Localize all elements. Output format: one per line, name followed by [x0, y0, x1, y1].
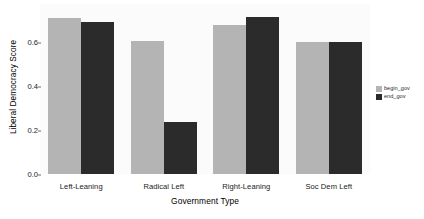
- bar-begin_gov: [131, 41, 164, 174]
- bar-group: [213, 4, 279, 174]
- bar-group: [131, 4, 197, 174]
- y-tick-label: 0.2: [2, 126, 38, 135]
- plot-area: 0.00.20.40.6: [40, 4, 370, 174]
- bar-begin_gov: [48, 18, 81, 174]
- legend: begin_gov end_gov: [376, 85, 410, 101]
- x-axis-title: Government Type: [40, 196, 370, 206]
- bar-end_gov: [329, 42, 362, 174]
- bar-end_gov: [164, 122, 197, 174]
- y-tick-label: 0.4: [2, 82, 38, 91]
- x-tick-label: Radical Left: [143, 182, 184, 191]
- plot-inner: 0.00.20.40.6: [40, 4, 370, 174]
- y-tick-label: 0.0: [2, 170, 38, 179]
- bar-begin_gov: [213, 25, 246, 174]
- x-tick-label: Soc Dem Left: [305, 182, 352, 191]
- bar-group: [48, 4, 114, 174]
- bar-begin_gov: [296, 42, 329, 174]
- bar-end_gov: [81, 22, 114, 174]
- bar-chart-figure: Liberal Democracy Score 0.00.20.40.6 Gov…: [0, 0, 424, 219]
- bar-group: [296, 4, 362, 174]
- legend-item-begin-gov: begin_gov: [376, 85, 410, 92]
- legend-label-begin-gov: begin_gov: [384, 85, 410, 92]
- x-tick-label: Right-Leaning: [222, 182, 270, 191]
- legend-label-end-gov: end_gov: [384, 93, 405, 100]
- legend-swatch-begin-gov: [376, 86, 382, 92]
- legend-item-end-gov: end_gov: [376, 93, 410, 100]
- legend-swatch-end-gov: [376, 94, 382, 100]
- bar-end_gov: [246, 17, 279, 174]
- y-tick-label: 0.6: [2, 38, 38, 47]
- x-tick-label: Left-Leaning: [60, 182, 103, 191]
